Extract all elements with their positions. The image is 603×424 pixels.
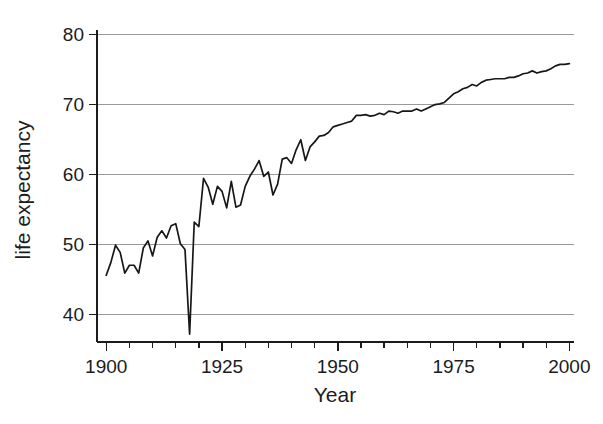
- x-axis-tick-labels: 19001925195019752000: [85, 356, 590, 377]
- life-expectancy-figure: 80 70 60 50 40 19001925195019752000 Year…: [0, 0, 603, 424]
- x-tick-label-2000: 2000: [548, 356, 590, 377]
- x-axis: 19001925195019752000: [85, 342, 590, 377]
- y-tick-label-70: 70: [63, 94, 84, 115]
- x-tick-label-1900: 1900: [85, 356, 127, 377]
- y-tick-label-40: 40: [63, 304, 84, 325]
- x-tick-label-1950: 1950: [317, 356, 359, 377]
- y-tick-label-50: 50: [63, 234, 84, 255]
- y-axis: 80 70 60 50 40: [63, 24, 97, 342]
- y-tick-label-60: 60: [63, 164, 84, 185]
- y-tick-label-80: 80: [63, 24, 84, 45]
- x-tick-label-1925: 1925: [201, 356, 243, 377]
- x-axis-title: Year: [314, 383, 356, 406]
- chart-canvas: 80 70 60 50 40 19001925195019752000 Year…: [0, 0, 603, 424]
- gridlines: [97, 35, 574, 315]
- x-tick-label-1975: 1975: [432, 356, 474, 377]
- y-axis-title: life expectancy: [11, 120, 34, 259]
